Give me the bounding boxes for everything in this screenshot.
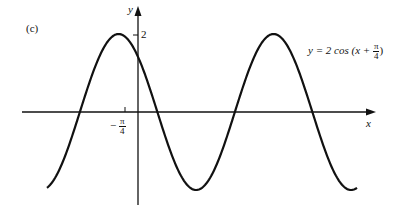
y-axis-label: y	[128, 3, 133, 15]
x-axis-arrow-icon	[366, 109, 376, 116]
y-axis-arrow-icon	[135, 6, 142, 16]
fraction: π 4	[119, 117, 126, 136]
denominator: 4	[119, 127, 126, 136]
equation-suffix: )	[379, 44, 383, 56]
x-tick-label: − π 4	[110, 117, 126, 136]
panel-label: (c)	[26, 22, 38, 34]
minus-sign: −	[110, 119, 116, 131]
chart-canvas	[0, 0, 399, 212]
x-axis-label: x	[366, 117, 371, 129]
equation-label: y = 2 cos (x + π4)	[308, 42, 383, 61]
y-tick-label: 2	[141, 28, 147, 40]
equation-prefix: y = 2 cos (x +	[308, 44, 373, 56]
